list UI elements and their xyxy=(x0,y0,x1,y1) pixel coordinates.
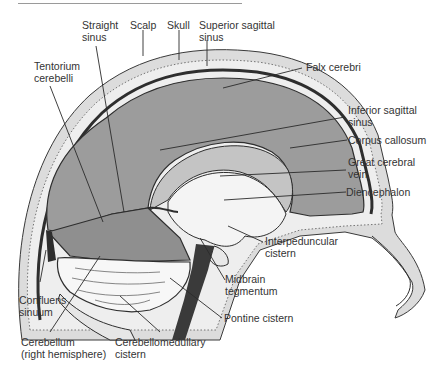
label-tentorium-cerebelli: Tentorium cerebelli xyxy=(34,60,83,84)
label-corpus-callosum: Corpus callosum xyxy=(348,134,426,146)
anatomy-diagram: Straight sinus Scalp Skull Superior sagi… xyxy=(0,0,435,368)
label-inferior-sagittal-sinus: Inferior sagittal sinus xyxy=(348,104,420,128)
label-skull: Skull xyxy=(167,19,190,31)
label-diencephalon: Diencephalon xyxy=(346,186,410,198)
label-falx-cerebri: Falx cerebri xyxy=(306,61,361,73)
label-scalp: Scalp xyxy=(130,19,156,31)
label-pontine-cistern: Pontine cistern xyxy=(224,312,294,324)
label-cerebellomedullary-cistern: Cerebellomedullary cistern xyxy=(115,336,208,360)
label-superior-sagittal-sinus: Superior sagittal sinus xyxy=(199,19,278,43)
label-midbrain-tegmentum: Midbrain tegmentum xyxy=(225,273,278,297)
label-interpeduncular-cistern: Interpeduncular cistern xyxy=(265,235,341,259)
label-straight-sinus: Straight sinus xyxy=(82,19,121,43)
